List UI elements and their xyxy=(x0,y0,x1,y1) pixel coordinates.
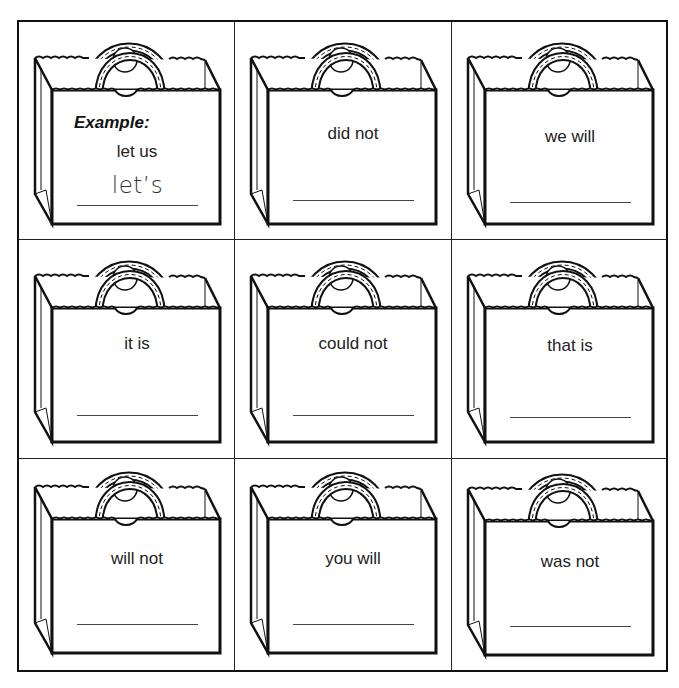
answer-line[interactable] xyxy=(293,415,414,416)
bag-cell: did not xyxy=(235,22,452,240)
example-label: Example: xyxy=(74,113,150,133)
bag-cell: was not xyxy=(452,459,666,670)
phrase-text: will not xyxy=(53,549,221,569)
bag-cell: it is xyxy=(19,240,235,459)
bag-cell: will not xyxy=(19,459,235,670)
phrase-text: that is xyxy=(486,336,654,356)
phrase-text: you will xyxy=(269,549,437,569)
answer-line[interactable] xyxy=(510,417,631,418)
phrase-text: it is xyxy=(53,334,221,354)
bag-cell-example: Example: let us let’s xyxy=(19,22,235,240)
phrase-text: did not xyxy=(269,124,437,144)
answer-line[interactable] xyxy=(293,200,414,201)
phrase-text: we will xyxy=(486,127,654,147)
worksheet-grid: Example: let us let’s did not we will it… xyxy=(17,20,668,672)
answer-line[interactable] xyxy=(77,415,198,416)
answer-line[interactable] xyxy=(293,624,414,625)
answer-text: let’s xyxy=(77,172,198,198)
answer-line[interactable] xyxy=(510,626,631,627)
bag-cell: could not xyxy=(235,240,452,459)
phrase-text: could not xyxy=(269,334,437,354)
bag-cell: you will xyxy=(235,459,452,670)
bag-cell: that is xyxy=(452,240,666,459)
answer-line[interactable] xyxy=(77,205,198,206)
bag-cell: we will xyxy=(452,22,666,240)
answer-line[interactable] xyxy=(510,202,631,203)
answer-line[interactable] xyxy=(77,624,198,625)
phrase-text: let us xyxy=(53,142,221,162)
phrase-text: was not xyxy=(486,552,654,572)
